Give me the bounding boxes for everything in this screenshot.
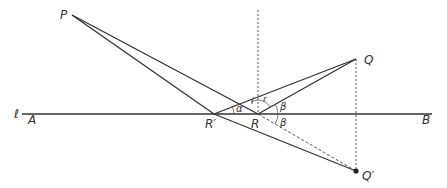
label-qprime: Q′ xyxy=(362,169,374,183)
label-q: Q xyxy=(364,53,373,67)
label-p: P xyxy=(60,8,68,22)
label-beta-top: β xyxy=(279,101,287,112)
label-beta-bottom: β xyxy=(279,117,287,128)
label-a: A xyxy=(27,113,36,127)
reflection-diagram: P Q Q′ R R′ ℓ A B α i r β β xyxy=(0,0,447,188)
label-rprime: R′ xyxy=(205,117,216,131)
beta-arc-bottom xyxy=(275,114,278,124)
ray-r-q xyxy=(258,59,356,114)
label-alpha: α xyxy=(236,103,243,114)
label-b: B xyxy=(422,113,430,127)
label-r: R xyxy=(251,117,259,131)
qprime-point xyxy=(353,168,358,173)
ray-r-qprime xyxy=(258,114,356,171)
ray-p-rprime xyxy=(72,15,214,114)
ray-p-r xyxy=(72,15,258,114)
label-r-angle: r xyxy=(263,94,268,104)
beta-arc-top xyxy=(275,104,278,114)
label-line: ℓ xyxy=(13,107,19,121)
